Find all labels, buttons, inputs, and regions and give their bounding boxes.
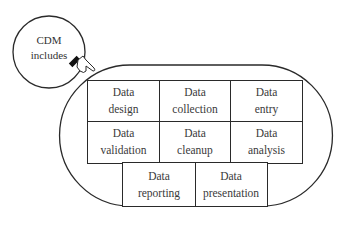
cell-line1: Data bbox=[220, 168, 242, 185]
cdm-bubble-line2: includes bbox=[14, 48, 84, 63]
cdm-bubble-label: CDM includes bbox=[14, 33, 84, 63]
cdm-bubble-line1: CDM bbox=[14, 33, 84, 48]
cell-line2: presentation bbox=[203, 185, 259, 202]
cell-line1: Data bbox=[256, 84, 278, 101]
cell-line1: Data bbox=[184, 84, 206, 101]
cell-line2: cleanup bbox=[177, 142, 213, 159]
cell-data-cleanup: Data cleanup bbox=[159, 121, 232, 164]
cell-line2: collection bbox=[172, 101, 217, 118]
cell-line2: design bbox=[108, 101, 138, 118]
cell-line1: Data bbox=[256, 125, 278, 142]
cell-line2: entry bbox=[255, 101, 279, 118]
cell-line1: Data bbox=[113, 125, 135, 142]
cell-line1: Data bbox=[184, 125, 206, 142]
cell-line2: reporting bbox=[138, 185, 180, 202]
cell-line2: analysis bbox=[248, 142, 285, 159]
cell-data-reporting: Data reporting bbox=[122, 162, 196, 207]
cell-line1: Data bbox=[148, 168, 170, 185]
cell-data-collection: Data collection bbox=[159, 80, 232, 122]
cell-data-entry: Data entry bbox=[230, 80, 303, 122]
cell-data-presentation: Data presentation bbox=[195, 162, 268, 207]
cell-data-analysis: Data analysis bbox=[230, 121, 303, 164]
cell-data-validation: Data validation bbox=[87, 121, 160, 164]
cell-data-design: Data design bbox=[87, 80, 160, 122]
cell-line1: Data bbox=[113, 84, 135, 101]
cell-line2: validation bbox=[101, 142, 147, 159]
